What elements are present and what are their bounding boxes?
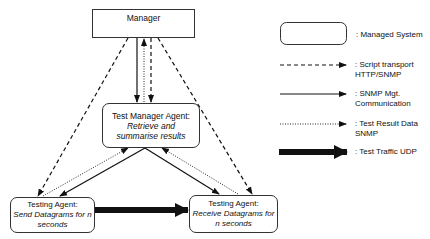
edge-tma-to-sender-snmp: [60, 148, 145, 196]
edge-tma-to-receiver-snmp: [145, 148, 219, 194]
legend-test-result-label: : Test Result Data SNMP: [355, 119, 418, 139]
node-receiver-desc-2: n seconds: [215, 219, 251, 229]
node-manager-label: Manager: [127, 13, 161, 23]
node-receiver-desc-1: Receive Datagrams for: [193, 209, 275, 219]
node-sender-agent: Testing Agent: Send Datagrams for n seco…: [10, 197, 95, 233]
node-tma-desc-2: summarise results: [117, 131, 186, 141]
node-sender-title: Testing Agent:: [27, 200, 77, 210]
node-manager: Manager: [92, 9, 195, 38]
edge-sender-to-tma-result: [43, 148, 128, 196]
node-sender-desc-2: seconds: [38, 220, 68, 230]
legend-test-traffic-label: : Test Traffic UDP: [355, 147, 417, 157]
legend-script-transport-label: : Script transport HTTP/SNMP: [355, 60, 414, 80]
legend-managed-system-label: : Managed System: [356, 30, 423, 40]
legend-snmp-mgt-label: : SNMP Mgt. Communication: [355, 89, 411, 109]
node-test-manager-agent: Test Manager Agent: Retrieve and summari…: [102, 103, 200, 148]
node-tma-desc-1: Retrieve and: [127, 121, 175, 131]
node-tma-title: Test Manager Agent:: [112, 111, 190, 121]
node-sender-desc-1: Send Datagrams for n: [13, 210, 91, 220]
node-receiver-title: Testing Agent:: [208, 199, 258, 209]
edge-receiver-to-tma-result: [162, 148, 238, 194]
legend-managed-system-symbol: [281, 23, 347, 45]
node-receiver-agent: Testing Agent: Receive Datagrams for n s…: [189, 195, 278, 233]
